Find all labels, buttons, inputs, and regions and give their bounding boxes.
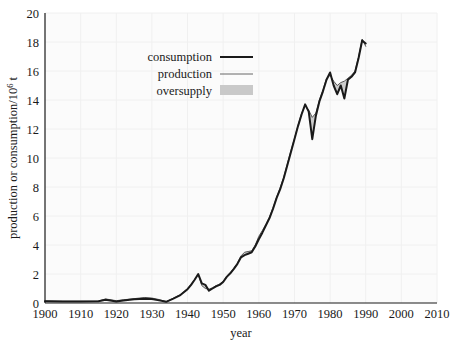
y-tick-label: 6	[33, 210, 39, 224]
production-consumption-line-chart: 02468101214161820 1900191019201930194019…	[0, 0, 456, 345]
y-tick-label: 2	[33, 268, 39, 282]
x-tick-label: 1970	[282, 307, 307, 321]
y-tick-label: 4	[33, 239, 40, 253]
svg-text:production or consumption/106: production or consumption/106 t	[5, 76, 20, 239]
y-tick-label: 10	[27, 152, 40, 166]
x-axis-tick-labels: 1900191019201930194019501960197019801990…	[33, 307, 450, 321]
y-axis-tick-labels: 02468101214161820	[27, 7, 40, 311]
x-tick-label: 1990	[353, 307, 378, 321]
chart-legend: consumption production oversupply	[147, 50, 253, 98]
y-tick-label: 16	[27, 65, 40, 79]
x-tick-label: 1920	[104, 307, 129, 321]
x-tick-label: 1950	[211, 307, 236, 321]
y-axis-title-main: production or consumption/10	[6, 88, 20, 239]
legend-marker-oversupply	[220, 85, 253, 95]
legend-label-production: production	[158, 67, 213, 81]
legend-label-consumption: consumption	[147, 50, 212, 64]
x-tick-label: 1980	[318, 307, 343, 321]
x-tick-label: 1930	[139, 307, 164, 321]
x-tick-label: 1910	[68, 307, 93, 321]
y-tick-label: 20	[27, 7, 40, 21]
x-tick-label: 1900	[33, 307, 58, 321]
y-tick-label: 18	[27, 36, 40, 50]
y-tick-label: 8	[33, 181, 39, 195]
x-tick-label: 2010	[425, 307, 450, 321]
x-tick-label: 1940	[175, 307, 200, 321]
x-axis-title: year	[230, 326, 252, 340]
legend-label-oversupply: oversupply	[156, 84, 212, 98]
y-axis-title: production or consumption/106 t	[5, 76, 20, 239]
x-tick-label: 1960	[246, 307, 271, 321]
y-tick-label: 14	[27, 94, 40, 108]
y-tick-label: 12	[27, 123, 40, 137]
chart-figure: 02468101214161820 1900191019201930194019…	[0, 0, 456, 345]
x-tick-label: 2000	[389, 307, 414, 321]
y-axis-title-unit: t	[6, 76, 20, 83]
